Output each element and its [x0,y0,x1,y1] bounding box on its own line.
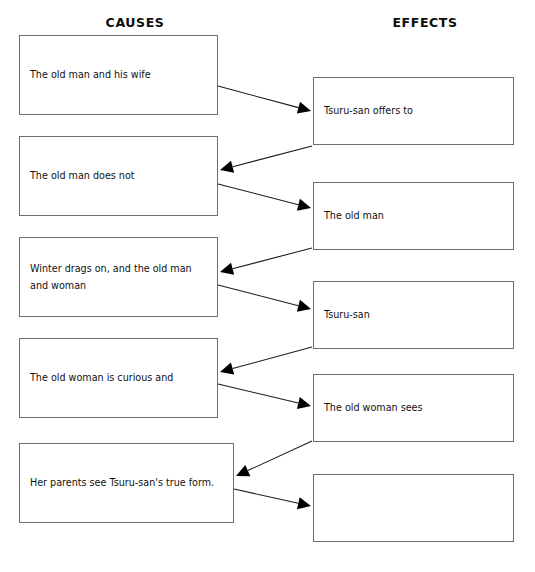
cause-1-box[interactable]: The old man and his wife [19,35,218,115]
conn-c4-e4-arrowhead [297,397,311,409]
cause-4-label: The old woman is curious and [20,370,173,386]
conn-c1-e1-line [218,86,298,108]
conn-e4-c5-arrowhead [236,465,250,476]
conn-e3-c4-arrowhead [220,363,234,375]
scan-artifact-text: · · · [10,0,24,3]
cause-2-label: The old man does not [20,168,135,184]
column-header-effects: EFFECTS [330,15,520,30]
conn-e1-c2-arrowhead [220,161,234,173]
effect-3-box[interactable]: Tsuru-san [313,281,514,349]
cause-2-box[interactable]: The old man does not [19,136,218,216]
conn-c5-e5-arrowhead [297,497,311,509]
conn-c4-e4-line [218,384,298,403]
conn-c1-e1 [218,86,311,114]
effect-1-label: Tsuru-san offers to [314,103,413,119]
conn-c3-e3 [218,285,311,312]
effect-4-box[interactable]: The old woman sees [313,374,514,442]
conn-e4-c5-line [248,441,312,471]
conn-c3-e3-line [218,285,298,306]
effect-2-box[interactable]: The old man [313,182,514,250]
cause-3-label: Winter drags on, and the old man and wom… [20,260,192,294]
cause-4-box[interactable]: The old woman is curious and [19,338,218,418]
conn-e1-c2 [220,146,312,173]
cause-effect-diagram: · · · CAUSES EFFECTS The old man and his… [0,0,535,572]
conn-e2-c3 [220,248,312,275]
conn-c5-e5 [234,489,311,509]
effect-4-label: The old woman sees [314,400,422,416]
conn-e2-c3-line [233,248,312,269]
conn-c2-e2-line [218,184,298,205]
conn-c2-e2-arrowhead [297,199,311,211]
conn-c5-e5-line [234,489,298,503]
effect-3-label: Tsuru-san [314,307,370,323]
conn-e3-c4-line [233,347,312,369]
conn-c3-e3-arrowhead [297,300,311,312]
conn-c2-e2 [218,184,311,211]
effect-2-label: The old man [314,208,384,224]
conn-c1-e1-arrowhead [297,102,311,114]
conn-e3-c4 [220,347,312,375]
conn-e2-c3-arrowhead [220,263,234,275]
conn-c4-e4 [218,384,311,409]
cause-3-box[interactable]: Winter drags on, and the old man and wom… [19,237,218,317]
cause-5-box[interactable]: Her parents see Tsuru-san's true form. [19,443,234,523]
conn-e1-c2-line [233,146,312,167]
column-header-causes: CAUSES [40,15,230,30]
effect-1-box[interactable]: Tsuru-san offers to [313,77,514,145]
conn-e4-c5 [236,441,312,476]
cause-5-label: Her parents see Tsuru-san's true form. [20,475,214,491]
effect-5-box[interactable] [313,474,514,542]
cause-1-label: The old man and his wife [20,67,151,83]
